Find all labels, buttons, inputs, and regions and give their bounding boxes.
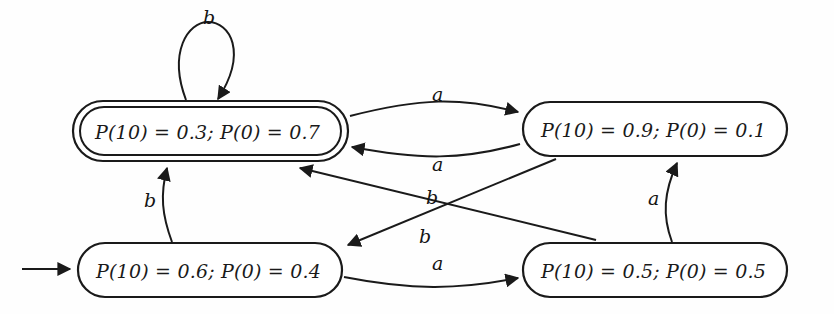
edge-label-q0-q0-b: b <box>203 6 215 28</box>
automaton-diagram: P(10) = 0.3; P(0) = 0.7 P(10) = 0.9; P(0… <box>0 0 834 314</box>
transition-q2-q0-b <box>163 168 172 242</box>
edge-label-q0-q1-a: a <box>432 83 443 105</box>
edge-label-q1-q0-a: a <box>432 153 443 175</box>
edge-label-q2-q3-a: a <box>432 252 443 274</box>
transition-q3-q1-a <box>666 163 677 242</box>
edge-label-q1-q2-b: b <box>419 225 431 247</box>
state-q2-label: P(10) = 0.6; P(0) = 0.4 <box>96 260 321 282</box>
transition-q2-q3-a <box>344 277 518 287</box>
state-q3-label: P(10) = 0.5; P(0) = 0.5 <box>541 260 766 282</box>
edge-label-q3-q1-a: a <box>648 187 659 209</box>
edge-label-q2-q0-b: b <box>144 189 156 211</box>
state-q0-label: P(10) = 0.3; P(0) = 0.7 <box>95 121 320 143</box>
edge-label-q3-q0-b: b <box>426 186 438 208</box>
transition-q0-q0-b <box>179 22 234 100</box>
transition-q1-q2-b <box>348 159 556 245</box>
state-q1-label: P(10) = 0.9; P(0) = 0.1 <box>541 119 766 141</box>
